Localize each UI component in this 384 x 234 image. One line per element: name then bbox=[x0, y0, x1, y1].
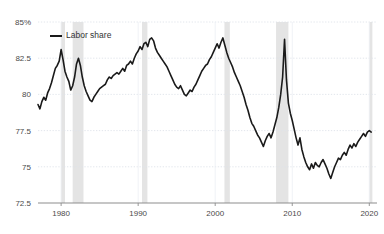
y-tick-label: 77.5 bbox=[15, 127, 31, 136]
labor-share-line-chart: 85%82.58077.57572.5 19801990200020102020… bbox=[0, 0, 384, 234]
recession-band bbox=[73, 22, 84, 203]
recession-band bbox=[369, 22, 372, 203]
chart-container: 85%82.58077.57572.5 19801990200020102020… bbox=[0, 0, 384, 234]
y-tick-label: 85% bbox=[15, 18, 31, 27]
y-tick-label: 82.5 bbox=[15, 54, 31, 63]
x-tick-label: 2000 bbox=[206, 209, 224, 218]
x-tick-label: 2010 bbox=[283, 209, 301, 218]
y-tick-label: 80 bbox=[22, 90, 31, 99]
y-tick-label: 72.5 bbox=[15, 199, 31, 208]
x-tick-label: 1990 bbox=[129, 209, 147, 218]
x-tick-label: 1980 bbox=[52, 209, 70, 218]
x-tick-label: 2020 bbox=[360, 209, 378, 218]
y-tick-label: 75 bbox=[22, 163, 31, 172]
legend-label: Labor share bbox=[66, 30, 112, 40]
